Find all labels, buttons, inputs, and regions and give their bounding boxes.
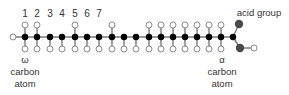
- hydrogen-atom: [182, 46, 188, 52]
- omega-carbon-label: ω carbon atom: [10, 54, 39, 89]
- omega-line1: carbon: [10, 66, 39, 77]
- oxygen-atom: [235, 20, 243, 28]
- carbon-atom: [59, 34, 65, 40]
- carbon-atom: [47, 34, 53, 40]
- hydrogen-atom: [121, 46, 127, 52]
- hydrogen-atom: [146, 22, 152, 28]
- hydrogen-atom: [218, 22, 224, 28]
- hydrogen-atom: [34, 22, 40, 28]
- fatty-acid-diagram: 1 2 3 4 5 6 7 ω carbon atom α carbon ato…: [0, 0, 289, 95]
- carbon-number-5: 5: [72, 8, 78, 19]
- alpha-line2: atom: [211, 78, 232, 89]
- carbon-atom: [182, 34, 188, 40]
- acid-group-label: acid group: [237, 7, 281, 18]
- carbon-atom: [206, 34, 212, 40]
- hydrogen-atom: [206, 22, 212, 28]
- hydrogen-atom: [84, 46, 90, 52]
- hydrogen-atom: [182, 22, 188, 28]
- alpha-line1: carbon: [207, 66, 236, 77]
- carbon-atom: [34, 34, 40, 40]
- hydrogen-atom: [22, 22, 28, 28]
- carbon-atom: [133, 34, 139, 40]
- carbon-atom: [194, 34, 200, 40]
- hydrogen-atom: [47, 46, 53, 52]
- alpha-carbon-label: α carbon atom: [207, 54, 236, 89]
- alpha-symbol: α: [219, 54, 225, 65]
- carbon-number-6: 6: [84, 8, 90, 19]
- carbon-atom: [22, 34, 28, 40]
- carbon-atom: [96, 34, 102, 40]
- hydrogen-atom: [59, 46, 65, 52]
- hydrogen-atom: [170, 46, 176, 52]
- hydroxyl-hydrogen-atom: [251, 45, 257, 51]
- carbon-atom: [72, 34, 78, 40]
- hydrogen-atom: [96, 46, 102, 52]
- hydrogen-atom: [109, 46, 115, 52]
- oxygen-atom: [236, 44, 244, 52]
- hydrogen-atom: [194, 22, 200, 28]
- carbon-atom: [218, 34, 224, 40]
- hydrogen-atom: [194, 46, 200, 52]
- omega-line2: atom: [14, 78, 35, 89]
- carbon-number-1: 1: [22, 8, 28, 19]
- carbon-atom: [158, 34, 164, 40]
- hydrogen-atom: [133, 46, 139, 52]
- carbon-atom: [230, 34, 236, 40]
- carbon-number-4: 4: [59, 8, 65, 19]
- hydrogen-atom: [146, 46, 152, 52]
- carbon-atom: [84, 34, 90, 40]
- hydrogen-atom: [72, 46, 78, 52]
- atoms: [10, 20, 257, 52]
- carbon-number-7: 7: [96, 8, 102, 19]
- hydrogen-atom: [158, 22, 164, 28]
- carbon-number-3: 3: [47, 8, 53, 19]
- hydrogen-atom: [22, 46, 28, 52]
- carbon-atom: [109, 34, 115, 40]
- carbon-number-labels: 1 2 3 4 5 6 7: [22, 8, 102, 19]
- carbon-atom: [121, 34, 127, 40]
- carbon-number-2: 2: [34, 8, 40, 19]
- hydrogen-atom: [109, 22, 115, 28]
- hydrogen-atom: [72, 22, 78, 28]
- terminal-hydrogen-atom: [10, 34, 16, 40]
- hydrogen-atom: [218, 46, 224, 52]
- hydrogen-atom: [170, 22, 176, 28]
- hydrogen-atom: [34, 46, 40, 52]
- hydrogen-atom: [158, 46, 164, 52]
- omega-symbol: ω: [21, 54, 29, 65]
- carbon-atom: [170, 34, 176, 40]
- carbon-atom: [146, 34, 152, 40]
- hydrogen-atom: [206, 46, 212, 52]
